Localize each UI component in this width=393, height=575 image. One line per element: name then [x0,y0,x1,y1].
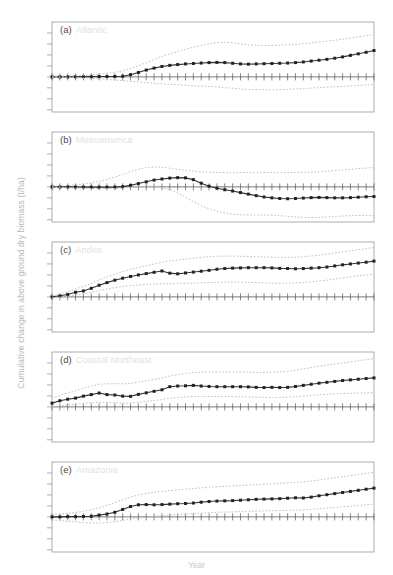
data-point-marker [105,513,108,516]
panel-frame [52,132,374,222]
data-point-marker [263,386,266,389]
data-point-marker [310,383,313,386]
data-point-marker [113,279,116,282]
data-point-marker [208,269,211,272]
data-point-marker [325,58,328,61]
data-point-marker [176,502,179,505]
data-point-marker [129,184,132,187]
x-axis-label: Year [0,560,393,570]
data-point-marker [247,498,250,501]
data-point-marker [66,515,69,518]
data-point-marker [333,57,336,60]
data-point-marker [247,266,250,269]
data-point-marker [153,503,156,506]
data-point-marker [90,75,93,78]
data-point-marker [239,385,242,388]
data-point-marker [121,277,124,280]
data-point-marker [294,267,297,270]
data-point-marker [365,51,368,54]
data-point-marker [310,196,313,199]
data-point-marker [278,197,281,200]
data-point-marker [160,65,163,68]
data-point-marker [286,267,289,270]
data-point-marker [365,377,368,380]
data-point-marker [129,505,132,508]
data-point-marker [349,378,352,381]
data-point-marker [66,293,69,296]
panel-region-name-b: Mesoamerica [76,134,133,145]
data-point-marker [184,176,187,179]
data-point-marker [294,197,297,200]
data-point-marker [349,490,352,493]
confidence-band-lower [52,393,374,407]
panel-c: (c)Andes [38,238,378,336]
data-point-marker [310,267,313,270]
data-point-marker [333,380,336,383]
data-point-marker [247,385,250,388]
data-point-marker [365,488,368,491]
data-point-marker [105,393,108,396]
panel-e: (e)Amazonia [38,458,378,556]
data-point-marker [51,515,54,518]
data-point-marker [145,69,148,72]
data-point-marker [145,391,148,394]
panel-frame [52,22,374,112]
data-point-marker [373,487,376,490]
panel-title-b: (b)Mesoamerica [60,134,133,145]
data-point-marker [82,515,85,518]
data-point-marker [192,62,195,65]
data-point-marker [113,75,116,78]
data-point-marker [294,61,297,64]
data-point-marker [341,491,344,494]
data-point-marker [137,393,140,396]
data-point-marker [239,62,242,65]
data-point-marker [74,515,77,518]
panel-region-name-c: Andes [75,244,102,255]
panel-id-d: (d) [60,354,72,365]
data-point-marker [318,382,321,385]
data-point-marker [129,275,132,278]
data-point-marker [98,284,101,287]
data-point-marker [357,262,360,265]
panel-region-name-e: Amazonia [76,464,118,475]
panel-id-a: (a) [60,24,72,35]
data-point-marker [341,379,344,382]
data-point-marker [208,61,211,64]
data-point-marker [263,266,266,269]
data-point-marker [184,502,187,505]
data-point-marker [310,60,313,63]
panel-id-e: (e) [60,464,72,475]
data-point-marker [184,384,187,387]
data-point-marker [153,390,156,393]
data-point-marker [223,267,226,270]
data-point-marker [168,503,171,506]
data-point-marker [247,63,250,66]
data-point-marker [286,497,289,500]
data-point-marker [333,196,336,199]
data-point-marker [66,398,69,401]
data-point-marker [168,177,171,180]
data-point-marker [373,260,376,263]
data-point-marker [270,497,273,500]
panel-b: (b)Mesoamerica [38,128,378,226]
data-point-marker [82,289,85,292]
data-point-marker [145,503,148,506]
data-point-marker [192,178,195,181]
data-point-marker [325,381,328,384]
data-point-marker [255,266,258,269]
data-point-marker [318,266,321,269]
mean-line [52,488,374,517]
data-point-marker [255,194,258,197]
data-point-marker [58,515,61,518]
data-point-marker [223,188,226,191]
data-point-marker [341,55,344,58]
data-point-marker [357,196,360,199]
data-point-marker [168,385,171,388]
data-point-marker [302,197,305,200]
confidence-band-upper [52,35,374,77]
data-point-marker [82,395,85,398]
panel-frame [52,242,374,332]
data-point-marker [278,267,281,270]
data-point-marker [113,511,116,514]
data-point-marker [278,497,281,500]
